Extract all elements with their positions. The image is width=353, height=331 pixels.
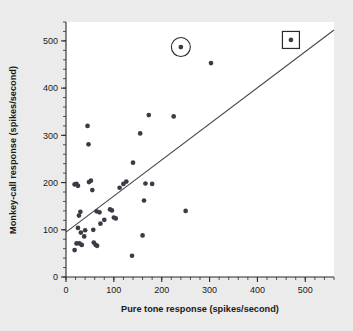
data-point	[78, 209, 83, 214]
data-point	[131, 160, 136, 165]
data-point	[130, 253, 135, 258]
data-point	[98, 221, 103, 226]
y-tick-label: 500	[43, 36, 58, 46]
data-point	[113, 216, 118, 221]
data-point	[289, 38, 294, 43]
y-tick-label: 100	[43, 225, 58, 235]
y-tick-label: 200	[43, 178, 58, 188]
data-point	[140, 233, 145, 238]
data-point	[76, 184, 81, 189]
data-point	[78, 230, 83, 235]
data-point	[138, 131, 143, 136]
x-tick-label: 200	[154, 285, 169, 295]
data-point	[142, 198, 147, 203]
scatter-plot: 0100200300400500 0100200300400500 Pure t…	[0, 0, 353, 331]
data-point	[150, 182, 155, 187]
x-tick-label: 400	[250, 285, 265, 295]
figure-container: 0100200300400500 0100200300400500 Pure t…	[0, 0, 353, 331]
data-point	[110, 208, 115, 213]
y-tick-label: 400	[43, 83, 58, 93]
x-tick-label: 100	[106, 285, 121, 295]
data-point	[79, 243, 84, 248]
data-point	[85, 124, 90, 129]
y-tick-label: 300	[43, 131, 58, 141]
data-point	[76, 226, 81, 231]
data-point	[171, 114, 176, 119]
data-point	[183, 209, 188, 214]
data-point	[97, 210, 102, 215]
y-tick-label: 0	[53, 272, 58, 282]
data-point	[209, 61, 214, 66]
y-axis-title: Monkey-call response (spikes/second)	[8, 66, 18, 234]
data-point	[143, 181, 148, 186]
data-point	[117, 185, 122, 190]
x-tick-label: 0	[63, 285, 68, 295]
data-point	[179, 45, 184, 50]
data-point	[102, 218, 107, 223]
data-point	[124, 179, 129, 184]
data-point	[86, 142, 91, 147]
data-point	[89, 178, 94, 183]
data-point	[95, 243, 100, 248]
data-point	[72, 248, 77, 253]
data-point	[82, 234, 87, 239]
data-point	[146, 113, 151, 118]
x-tick-label: 500	[298, 285, 313, 295]
data-point	[91, 227, 96, 232]
data-point	[83, 228, 88, 233]
x-tick-label: 300	[202, 285, 217, 295]
data-point	[90, 188, 95, 193]
x-axis-title: Pure tone response (spikes/second)	[121, 304, 279, 314]
